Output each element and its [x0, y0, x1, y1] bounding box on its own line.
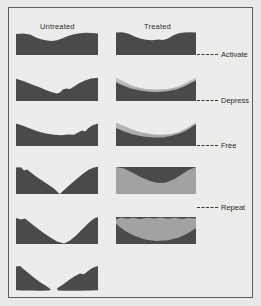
stage-label-depress: Depress — [221, 96, 249, 105]
panel-untreated-row6 — [16, 264, 98, 291]
leader-line-depress — [197, 100, 218, 101]
panel-treated-row1 — [116, 30, 196, 55]
figure-canvas: Untreated Treated Activate — [0, 0, 261, 306]
stage-label-activate: Activate — [221, 50, 248, 59]
panel-treated-row2 — [116, 76, 196, 101]
panel-treated-row3 — [116, 121, 196, 146]
panel-untreated-row4 — [16, 166, 98, 194]
leader-line-repeat — [197, 207, 218, 208]
panel-untreated-row5 — [16, 216, 98, 244]
panel-treated-row4 — [116, 166, 196, 194]
panel-untreated-row3 — [16, 121, 98, 146]
leader-line-free — [197, 145, 218, 146]
leader-line-activate — [197, 54, 218, 55]
panel-untreated-row2 — [16, 76, 98, 101]
stage-label-free: Free — [221, 141, 236, 150]
panel-treated-row5 — [116, 216, 196, 244]
stage-label-repeat: Repeat — [221, 203, 245, 212]
figure-plate: Untreated Treated Activate — [8, 7, 253, 298]
panel-untreated-row1 — [16, 30, 98, 55]
